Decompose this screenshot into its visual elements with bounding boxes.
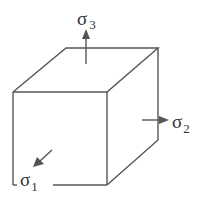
sigma1-arrow — [33, 150, 52, 167]
cube-right-face — [107, 48, 158, 185]
sigma2-label: σ2 — [172, 111, 190, 136]
sigma2-arrow — [142, 116, 169, 124]
stress-cube-diagram: σ3 σ2 σ1 — [0, 0, 206, 201]
sigma1-label: σ1 — [20, 169, 38, 194]
sigma3-arrow — [82, 29, 90, 64]
sigma3-label: σ3 — [77, 8, 96, 32]
